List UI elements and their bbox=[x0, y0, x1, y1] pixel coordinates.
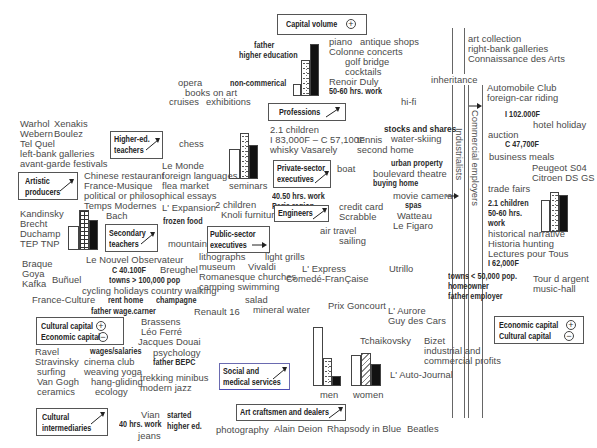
bar-black bbox=[249, 145, 258, 179]
label-utrillo: Utrillo bbox=[389, 263, 413, 274]
label-rhapsody-in-blue: Rhapsody in Blue bbox=[327, 423, 401, 434]
label-trade-fairs: trade fairs bbox=[488, 183, 530, 194]
bar-white bbox=[68, 226, 79, 250]
bar-black bbox=[89, 220, 98, 250]
cultural-intermediaries-label-2: intermediaries bbox=[42, 423, 91, 434]
arrow-up-right-icon bbox=[312, 207, 328, 220]
label-mountains: mountains bbox=[168, 238, 212, 249]
bar-speckled bbox=[323, 358, 332, 386]
bar-speckled bbox=[240, 133, 249, 179]
arrow-up-right-icon bbox=[90, 411, 106, 425]
arrow-up-right-icon bbox=[59, 178, 75, 192]
cultural-capital-label: Cultural capital bbox=[499, 331, 551, 342]
label-alain-delon: Alain Deion bbox=[274, 423, 323, 434]
label-sailing: sailing bbox=[339, 235, 366, 246]
label-rent-home: rent home bbox=[108, 295, 143, 306]
private-sector-label-2: executives bbox=[277, 174, 314, 185]
minus-icon: − bbox=[564, 331, 574, 341]
label-l-expansion: L' Expansion bbox=[162, 202, 216, 213]
label-modern-jazz: modern jazz bbox=[140, 382, 192, 393]
label-knoli-furniture: Knoli furniture bbox=[221, 209, 280, 220]
label-buying-home: buying home bbox=[373, 178, 418, 189]
label-foreign-car-riding: foreign-car riding bbox=[487, 92, 558, 103]
label-income-62000: I 62,000F bbox=[488, 258, 519, 269]
plus-icon: + bbox=[566, 320, 576, 330]
label-movie-camera: movie camera bbox=[393, 190, 452, 201]
label-music-hall: music-hall bbox=[533, 283, 576, 294]
economic-capital-label: Economic capital bbox=[41, 332, 100, 343]
label-men: men bbox=[320, 389, 338, 400]
bar-black bbox=[332, 376, 341, 386]
public-sector-label-2: executives bbox=[210, 240, 247, 251]
label-mineral-water: mineral water bbox=[253, 304, 310, 315]
social-medical-label-1: Social and bbox=[223, 366, 259, 377]
label-tep-tnp: TEP TNP bbox=[20, 238, 60, 249]
engineers-box: Engineers bbox=[274, 205, 329, 222]
label-women: women bbox=[353, 389, 383, 400]
higher-ed-label-2: teachers bbox=[114, 145, 144, 156]
private-sector-executives-box: Private-sector executives bbox=[273, 160, 331, 188]
public-sector-label-1: Public-sector bbox=[210, 229, 256, 240]
economic-capital-legend-box: Economic capital Cultural capital + − bbox=[494, 316, 584, 344]
minus-icon: − bbox=[98, 332, 108, 342]
plus-icon: + bbox=[346, 19, 356, 29]
label-capital-47700: C 47,700F bbox=[505, 139, 539, 150]
artistic-label-1: Artistic bbox=[25, 176, 50, 187]
professions-box: Professions bbox=[268, 103, 346, 121]
bar-white bbox=[351, 355, 361, 386]
economic-capital-label: Economic capital bbox=[499, 320, 558, 331]
label-commercial-employers: Commercial employers bbox=[470, 110, 481, 206]
label-beatles: Beatles bbox=[407, 423, 439, 434]
label-citroen: Citroen DS GS bbox=[532, 172, 595, 183]
cultural-capital-legend-box: Cultural capital Economic capital + − bbox=[36, 317, 124, 345]
label-exhibitions: exhibitions bbox=[206, 96, 251, 107]
label-commercial-profits: commercial profits bbox=[424, 355, 501, 366]
arrow-right-icon bbox=[252, 241, 268, 249]
label-boulez: Boulez bbox=[54, 128, 83, 139]
label-water-skiing: water-skiing bbox=[391, 133, 442, 144]
secondary-label-2: teachers bbox=[109, 239, 139, 250]
arrow-up-right-icon bbox=[325, 106, 341, 118]
bar-white bbox=[293, 84, 301, 96]
art-craftsmen-label: Art craftsmen and dealers bbox=[240, 407, 329, 418]
label-boat: boat bbox=[337, 163, 355, 174]
label-jacques-douai: Jacques Douai bbox=[138, 336, 201, 347]
label-cruises: cruises bbox=[169, 96, 199, 107]
label-tchaikovsky: Tchaikovsky bbox=[360, 335, 411, 346]
label-france-culture: France-Culture bbox=[32, 294, 95, 305]
cultural-intermediaries-box: Cultural intermediaries bbox=[36, 408, 108, 436]
label-ecology: ecology bbox=[95, 386, 128, 397]
bar-wave bbox=[361, 353, 371, 386]
label-non-commercial: non-commerical bbox=[230, 78, 286, 89]
arrow-up-right-icon bbox=[272, 366, 288, 380]
public-sector-executives-box: Public-sector executives bbox=[207, 226, 270, 253]
arrow-up-right-icon bbox=[140, 231, 156, 245]
label-prix-goncourt: Prix Goncourt bbox=[328, 300, 386, 311]
art-craftsmen-dealers-box: Art craftsmen and dealers bbox=[236, 404, 346, 421]
label-father-bepc: father BEPC bbox=[153, 357, 196, 368]
bar-black bbox=[371, 364, 381, 386]
label-champagne: champagne bbox=[156, 295, 196, 306]
label-connaissance: Connaissance des Arts bbox=[468, 53, 565, 64]
label-l-auto-journal: L' Auto-Journal bbox=[390, 369, 453, 380]
bar-black bbox=[559, 195, 568, 232]
label-whisky-vasarely: whisky Vasarely bbox=[270, 144, 337, 155]
capital-volume-label: Capital volume bbox=[286, 19, 337, 30]
label-industrialists: Industrialists bbox=[454, 128, 465, 180]
label-higher-ed: higher ed. bbox=[167, 421, 202, 432]
label-hrs-40: 40 hrs. work bbox=[119, 419, 162, 430]
professions-label: Professions bbox=[279, 107, 320, 118]
plus-icon: + bbox=[96, 321, 106, 331]
capital-volume-box: Capital volume + bbox=[277, 14, 367, 35]
arrow-up-right-icon bbox=[145, 137, 161, 151]
bar-grid bbox=[79, 210, 89, 250]
label-second-home: second home bbox=[357, 144, 414, 155]
bar-speckled bbox=[301, 60, 310, 96]
label-father-employer: father employer bbox=[448, 291, 503, 302]
label-jeans: jeans bbox=[138, 430, 161, 441]
label-started: started bbox=[167, 410, 191, 421]
cultural-intermediaries-label-1: Cultural bbox=[42, 412, 69, 423]
bar-white bbox=[313, 327, 323, 386]
arrow-right-icon bbox=[469, 102, 483, 110]
label-chess: chess bbox=[179, 138, 204, 149]
